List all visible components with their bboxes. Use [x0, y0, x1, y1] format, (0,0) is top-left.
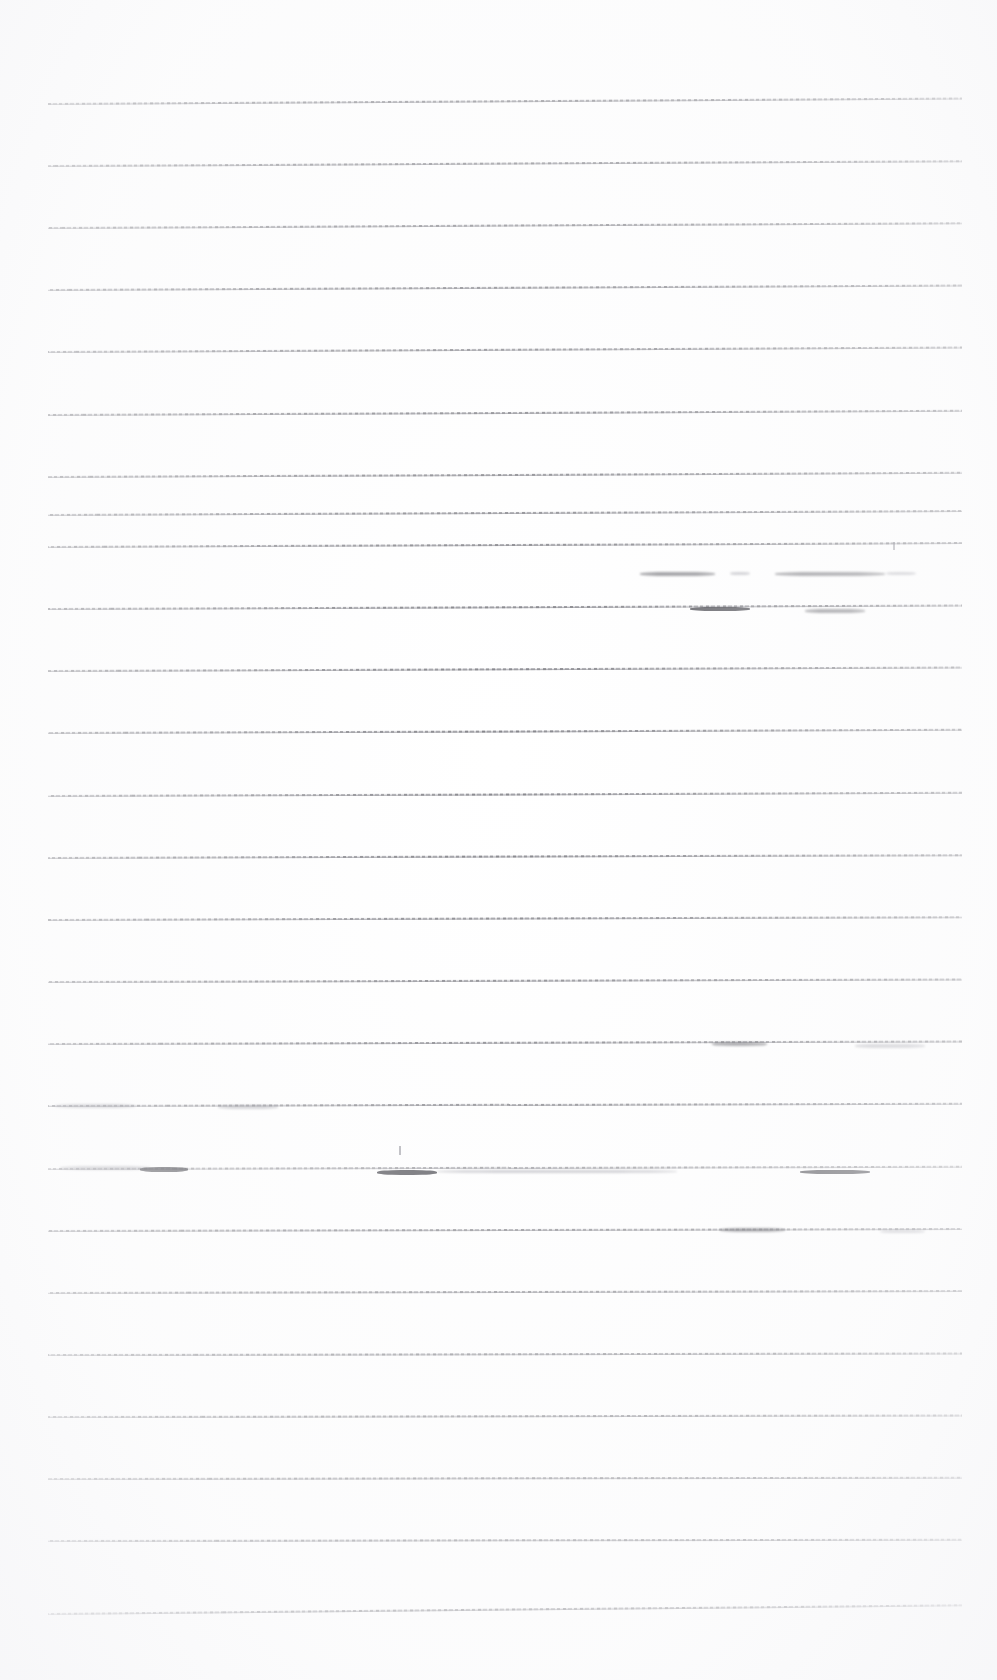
ink-smudge [775, 572, 885, 576]
ruled-line-ink [48, 410, 962, 416]
ruled-line-ink [48, 542, 962, 548]
ink-speck [893, 542, 895, 550]
ruled-line [48, 978, 962, 983]
ruled-line-ink [48, 97, 962, 105]
ruled-line-hairline [48, 511, 962, 516]
ruled-line [48, 1352, 962, 1356]
ruled-line [48, 604, 962, 610]
ink-smudge [690, 607, 750, 611]
ruled-line-ink [48, 1352, 962, 1356]
ruled-line-ink [48, 792, 962, 797]
scanned-page [0, 0, 997, 1680]
ink-smudge [60, 1166, 150, 1170]
ruled-line [48, 1228, 962, 1232]
ruled-line [48, 1604, 962, 1615]
ink-smudge [55, 1104, 135, 1108]
ruled-line-ink [48, 347, 962, 353]
ink-smudge [720, 1228, 785, 1232]
ruled-line [48, 347, 962, 353]
ink-smudge [437, 1170, 677, 1173]
ruled-line-hairline [48, 1415, 962, 1417]
ruled-line [48, 410, 962, 416]
ruled-line-ink [48, 222, 962, 229]
ruled-line-ink [48, 1604, 962, 1615]
ruled-line-hairline [48, 1103, 962, 1106]
ink-smudge [805, 609, 865, 613]
ruled-line-hairline [48, 223, 962, 228]
ruled-line-hairline [48, 1166, 962, 1169]
ruled-line-ink [48, 854, 962, 859]
ruled-line [48, 1290, 962, 1294]
ruled-line [48, 285, 962, 291]
ruled-line-hairline [48, 1229, 962, 1232]
ruled-line [48, 472, 962, 478]
ruled-line-hairline [48, 605, 962, 609]
ruled-line [48, 666, 962, 672]
ruled-line-ink [48, 1040, 962, 1045]
ruled-line [48, 1040, 962, 1045]
ruled-line-hairline [48, 472, 962, 477]
ruled-line-hairline [48, 161, 962, 166]
ruled-line-ink [48, 916, 962, 921]
ruled-line [48, 729, 962, 734]
ruled-line [48, 222, 962, 229]
ruled-line-ink [48, 1103, 962, 1107]
ruled-line-hairline [48, 729, 962, 733]
ruled-line-ink [48, 1477, 962, 1480]
ink-smudge [855, 1044, 925, 1048]
ruled-line-hairline [48, 667, 962, 671]
ruled-line-hairline [48, 98, 962, 104]
ruled-line-hairline [48, 543, 962, 548]
ruled-line-ink [48, 604, 962, 610]
ruled-line-ink [48, 1290, 962, 1294]
ruled-line-hairline [48, 1041, 962, 1044]
ink-smudge [640, 572, 715, 576]
ruled-line-ink [48, 1228, 962, 1232]
ruled-line [48, 792, 962, 797]
ruled-line-hairline [48, 1539, 962, 1541]
ruled-line-hairline [48, 410, 962, 415]
ruled-line-hairline [48, 285, 962, 290]
ruled-line [48, 854, 962, 859]
ink-smudge [730, 572, 750, 575]
ruled-line-ink [48, 1166, 962, 1170]
ruled-line [48, 1414, 962, 1418]
ruled-line-hairline [48, 1353, 962, 1355]
ink-speck [399, 1146, 401, 1155]
ruled-line-ink [48, 666, 962, 672]
ink-smudge [712, 1042, 767, 1046]
ink-smudge [140, 1167, 188, 1172]
ink-smudge [886, 572, 916, 575]
ruled-line [48, 542, 962, 548]
ink-smudge [800, 1170, 870, 1174]
ruled-line [48, 1103, 962, 1107]
ruled-line [48, 1166, 962, 1170]
ruled-line [48, 1539, 962, 1542]
ruled-line-ink [48, 510, 962, 516]
ruled-line-ink [48, 160, 962, 167]
ruled-line-ink [48, 978, 962, 983]
ruled-line-hairline [48, 1605, 962, 1614]
ruled-line-ink [48, 729, 962, 734]
ruled-line [48, 510, 962, 516]
ruled-line [48, 1477, 962, 1480]
ruled-line-hairline [48, 979, 962, 982]
ruled-line-ink [48, 472, 962, 478]
ruled-line [48, 916, 962, 921]
ruled-line-ink [48, 1539, 962, 1542]
ruled-line-hairline [48, 347, 962, 352]
ruled-line [48, 97, 962, 105]
ink-smudge [880, 1230, 925, 1233]
ruled-line-ink [48, 285, 962, 291]
ruled-line [48, 160, 962, 167]
ruled-line-hairline [48, 1477, 962, 1479]
ink-smudge [377, 1170, 437, 1175]
ink-smudge [218, 1105, 278, 1109]
ruled-line-hairline [48, 1291, 962, 1294]
ruled-line-hairline [48, 917, 962, 921]
ruled-line-ink [48, 1414, 962, 1418]
ruled-line-hairline [48, 855, 962, 859]
paper-tone-overlay [0, 0, 997, 1680]
ruled-line-hairline [48, 792, 962, 796]
